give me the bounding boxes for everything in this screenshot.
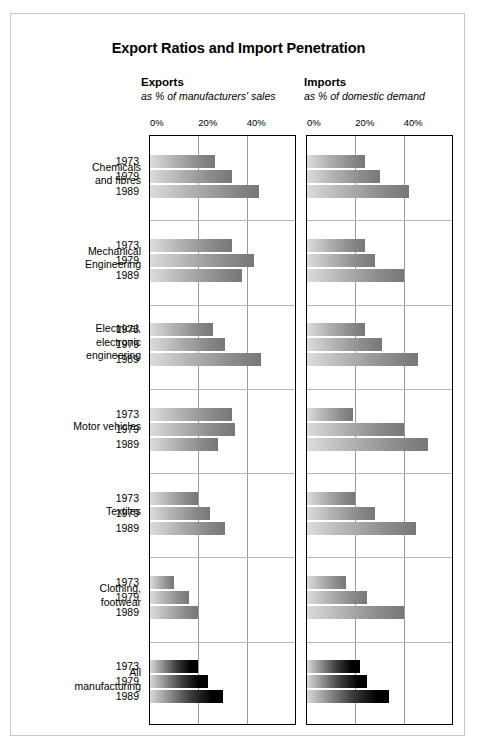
year-label: 1989 [99,269,139,282]
bar [150,254,254,267]
axis-tick-label: 40% [247,117,266,128]
bar [307,155,365,168]
bar [307,269,404,282]
imports-panel-subtitle: as % of domestic demand [304,89,464,103]
exports-panel-header: Exports as % of manufacturers' sales [141,76,301,103]
bar [307,185,409,198]
exports-axis-tick-labels: 0%20%40% [141,117,311,131]
chart-card: Export Ratios and Import Penetration Exp… [10,13,465,736]
bar [307,690,389,703]
year-label: 1989 [99,353,139,366]
imports-panel-title: Imports [304,76,464,89]
group-separator [150,642,295,643]
year-label: 1979 [99,254,139,267]
year-label: 1973 [99,155,139,168]
bar [307,591,367,604]
year-label: 1973 [99,660,139,673]
year-label: 1979 [99,675,139,688]
axis-tick-label: 0% [150,117,164,128]
year-label: 1973 [99,239,139,252]
year-label: 1973 [99,576,139,589]
bar [307,353,418,366]
year-label: 1973 [99,408,139,421]
bar [150,423,235,436]
group-separator [307,220,452,221]
year-label: 1979 [99,507,139,520]
axis-tick-label: 20% [198,117,217,128]
bar [150,591,189,604]
year-label: 1989 [99,185,139,198]
imports-panel-header: Imports as % of domestic demand [304,76,464,103]
year-label: 1979 [99,170,139,183]
year-label: 1979 [99,338,139,351]
year-label: 1979 [99,591,139,604]
group-separator [307,642,452,643]
bar [307,338,382,351]
group-separator [150,305,295,306]
axis-tick-label: 20% [355,117,374,128]
group-separator [307,473,452,474]
bar [150,353,261,366]
bar [307,492,355,505]
bar [150,690,223,703]
gridline [247,136,248,724]
bar [307,606,404,619]
group-separator [150,220,295,221]
imports-axis-tick-labels: 0%20%40% [298,117,468,131]
year-label: 1979 [99,423,139,436]
bar [307,507,375,520]
exports-panel-title: Exports [141,76,301,89]
bar [150,269,242,282]
imports-plot-area [306,135,453,725]
bar [150,323,213,336]
bar [307,438,428,451]
bar [150,660,198,673]
group-separator [307,305,452,306]
bar [150,170,232,183]
bar [307,170,380,183]
bar [150,155,215,168]
bar [307,254,375,267]
year-label: 1973 [99,492,139,505]
bar [150,675,208,688]
bar [150,185,259,198]
exports-panel-subtitle: as % of manufacturers' sales [141,89,301,103]
bar [150,507,210,520]
page-title: Export Ratios and Import Penetration [11,40,466,56]
bar [150,239,232,252]
year-label: 1989 [99,690,139,703]
bar [307,675,367,688]
bar [150,438,218,451]
year-label: 1989 [99,606,139,619]
group-separator [150,473,295,474]
bar [150,408,232,421]
bar [150,492,198,505]
bar [307,660,360,673]
year-label: 1989 [99,438,139,451]
group-separator [150,389,295,390]
bar [150,606,198,619]
bar [150,522,225,535]
group-separator [307,557,452,558]
bar [307,323,365,336]
year-label: 1989 [99,522,139,535]
axis-tick-label: 40% [404,117,423,128]
bar [307,423,404,436]
bar [307,408,353,421]
bar [307,239,365,252]
axis-tick-label: 0% [307,117,321,128]
bar [150,576,174,589]
exports-plot-area [149,135,296,725]
gridline [404,136,405,724]
bar [307,576,346,589]
group-separator [307,389,452,390]
year-label: 1973 [99,323,139,336]
bar [150,338,225,351]
bar [307,522,416,535]
group-separator [150,557,295,558]
